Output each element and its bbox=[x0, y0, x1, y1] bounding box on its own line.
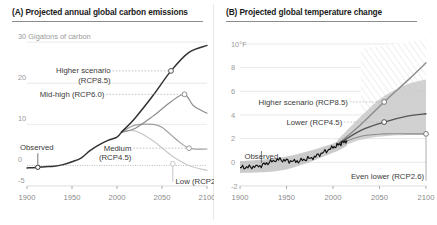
label-higher-scenario: Higher scenario (RCP8.5) bbox=[259, 98, 349, 107]
panel-a-plot: 30 Gigatons of carbon20100-5190019502000… bbox=[0, 0, 214, 225]
y-tick-label: 4 bbox=[231, 111, 235, 120]
observed-start-marker bbox=[36, 165, 40, 169]
scenario-endpoint-marker bbox=[187, 146, 192, 151]
label-observed: Observed bbox=[20, 143, 54, 152]
label-low: Low (RCP2.6) bbox=[176, 177, 215, 186]
series-line bbox=[122, 124, 208, 149]
y-tick-label: -2 bbox=[231, 182, 238, 191]
scenario-endpoint-marker bbox=[424, 132, 429, 137]
panel-a: (A) Projected annual global carbon emiss… bbox=[0, 0, 214, 225]
label-medium-rcp: (RCP4.5) bbox=[99, 153, 132, 162]
scenario-endpoint-marker bbox=[382, 100, 387, 105]
y-tick-label: 8 bbox=[231, 63, 235, 72]
label-observed: Observed bbox=[244, 152, 278, 161]
panel-b: (B) Projected global temperature change … bbox=[214, 0, 437, 225]
x-tick-label: 1950 bbox=[278, 193, 295, 202]
y-tick-label: 2 bbox=[231, 134, 235, 143]
panel-b-plot: 10°F86420-219001950200020502100Higher sc… bbox=[214, 0, 437, 225]
x-tick-label: 1950 bbox=[64, 193, 81, 202]
y-tick-label: 20 bbox=[18, 73, 26, 82]
x-tick-label: 1900 bbox=[232, 193, 249, 202]
x-tick-label: 2000 bbox=[325, 193, 342, 202]
scenario-endpoint-marker bbox=[170, 161, 175, 166]
label-mid-high: Mid-high (RCP6.0) bbox=[40, 90, 105, 99]
y-tick-label: 10°F bbox=[231, 40, 247, 49]
y-tick-label: 0 bbox=[231, 158, 235, 167]
x-tick-label: 1900 bbox=[19, 193, 36, 202]
y-tick-label: 30 Gigatons of carbon bbox=[18, 32, 91, 41]
label-higher-scenario: Higher scenario bbox=[56, 66, 111, 75]
scenario-endpoint-marker bbox=[169, 68, 174, 73]
x-tick-label: 2050 bbox=[154, 193, 171, 202]
y-tick-label: -5 bbox=[18, 176, 25, 185]
scenario-endpoint-marker bbox=[382, 120, 387, 125]
climate-projection-figure: (A) Projected annual global carbon emiss… bbox=[0, 0, 437, 225]
label-lower: Lower (RCP4.5) bbox=[286, 118, 342, 127]
series-line bbox=[122, 130, 208, 170]
x-tick-label: 2000 bbox=[109, 193, 126, 202]
series-line bbox=[122, 45, 208, 132]
y-tick-label: 6 bbox=[231, 87, 235, 96]
y-tick-label: 10 bbox=[18, 114, 26, 123]
label-higher-scenario-rcp: (RCP8.5) bbox=[78, 76, 111, 85]
y-tick-label: 0 bbox=[18, 155, 22, 164]
scenario-endpoint-marker bbox=[182, 92, 187, 97]
label-medium: Medium bbox=[104, 144, 132, 153]
x-tick-label: 2100 bbox=[199, 193, 214, 202]
x-tick-label: 2050 bbox=[371, 193, 388, 202]
x-tick-label: 2100 bbox=[418, 193, 435, 202]
label-even-lower: Even lower (RCP2.6) bbox=[351, 172, 425, 181]
series-line bbox=[122, 94, 208, 132]
